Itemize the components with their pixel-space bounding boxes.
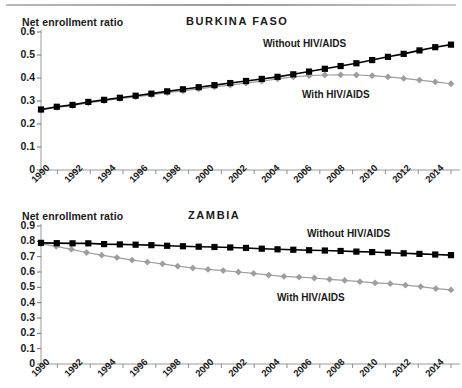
- y-tick-label: 0.2: [5, 326, 35, 338]
- y-tick-label: 0.9: [5, 219, 35, 231]
- plot-area: [0, 12, 462, 192]
- plot-area: [0, 206, 462, 386]
- y-tick-label: 0.1: [5, 342, 35, 354]
- y-tick-label: 0.4: [5, 71, 35, 83]
- y-tick-label: 0.7: [5, 250, 35, 262]
- y-tick-label: 0: [5, 163, 35, 175]
- y-tick-label: 0.5: [5, 48, 35, 60]
- y-tick-label: 0.8: [5, 234, 35, 246]
- series-label-with-hiv: With HIV/AIDS: [277, 292, 345, 303]
- series-label-with-hiv: With HIV/AIDS: [302, 89, 370, 100]
- series-label-without-hiv: Without HIV/AIDS: [263, 38, 346, 49]
- y-tick-label: 0: [5, 357, 35, 369]
- y-tick-label: 0.5: [5, 280, 35, 292]
- chart-panel-zambia: Net enrollment ratio ZAMBIA 00.10.20.30.…: [0, 206, 462, 386]
- y-tick-label: 0.6: [5, 265, 35, 277]
- header-rule: [6, 4, 456, 6]
- y-tick-label: 0.6: [5, 25, 35, 37]
- series-label-without-hiv: Without HIV/AIDS: [307, 228, 390, 239]
- chart-panel-burkina-faso: Net enrollment ratio BURKINA FASO 00.10.…: [0, 12, 462, 192]
- y-tick-label: 0.3: [5, 311, 35, 323]
- y-tick-label: 0.3: [5, 94, 35, 106]
- y-tick-label: 0.1: [5, 140, 35, 152]
- y-tick-label: 0.2: [5, 117, 35, 129]
- y-tick-label: 0.4: [5, 296, 35, 308]
